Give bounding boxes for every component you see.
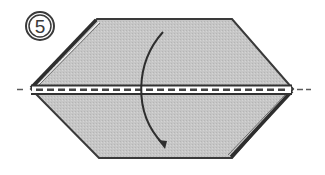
valley-fold-line <box>31 86 292 95</box>
origami-diagram: 5 <box>0 0 325 175</box>
step-number-text: 5 <box>35 16 46 37</box>
step-number-badge: 5 <box>26 12 54 40</box>
